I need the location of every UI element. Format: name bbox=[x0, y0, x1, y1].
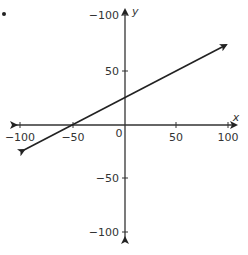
y-tick-label: 50 bbox=[105, 65, 119, 78]
x-axis bbox=[16, 122, 236, 128]
origin-label: 0 bbox=[116, 127, 123, 140]
y-tick-label: −100 bbox=[89, 9, 119, 22]
x-tick-label: 50 bbox=[169, 131, 183, 144]
y-axis bbox=[122, 10, 128, 238]
x-tick-label: −100 bbox=[5, 131, 35, 144]
y-axis-label: y bbox=[131, 5, 139, 18]
x-tick-label: 100 bbox=[218, 131, 239, 144]
x-axis-label: x bbox=[232, 111, 240, 124]
x-tick-label: −50 bbox=[61, 131, 84, 144]
coordinate-plane: −100 −50 0 50 100 x −100 50 −50 −100 y bbox=[0, 0, 248, 255]
y-tick-label: −100 bbox=[89, 226, 119, 239]
y-tick-label: −50 bbox=[96, 172, 119, 185]
